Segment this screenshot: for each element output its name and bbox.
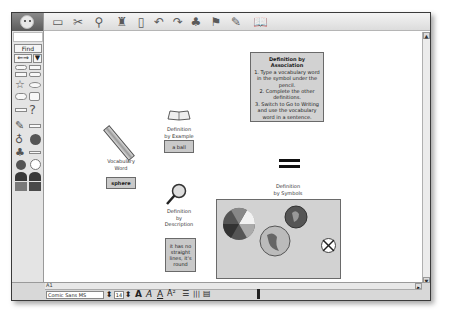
ellipse-shape-tool[interactable] bbox=[29, 82, 41, 88]
find-button[interactable]: Find bbox=[14, 44, 42, 53]
redo-icon[interactable]: ↷ bbox=[171, 14, 185, 30]
bold-button[interactable]: A bbox=[135, 289, 142, 299]
tree-icon[interactable]: ♣ bbox=[15, 147, 25, 158]
toolbar-blank-field[interactable] bbox=[13, 32, 43, 42]
undo-icon[interactable]: ↶ bbox=[152, 14, 166, 30]
link-icon[interactable]: ⚲ bbox=[92, 14, 106, 30]
example-label: Definition by Example bbox=[159, 126, 199, 139]
find-label: Find bbox=[22, 45, 34, 52]
girl-avatar-icon[interactable] bbox=[29, 172, 41, 181]
nav-arrows-button[interactable]: ⇐⇒ bbox=[14, 54, 32, 63]
magnifying-glass-icon bbox=[165, 183, 187, 207]
pie-chart-symbol-icon bbox=[222, 207, 256, 241]
pencil-icon[interactable]: ✎ bbox=[228, 14, 244, 30]
rounded-shape-tool[interactable] bbox=[29, 72, 41, 77]
font-stepper-icon[interactable]: ⬍ bbox=[106, 290, 113, 299]
dropdown-button[interactable]: ▼ bbox=[33, 54, 42, 63]
instructions-title: Definition by Association bbox=[253, 56, 321, 69]
flag-icon[interactable]: ⚑ bbox=[208, 14, 224, 30]
symbols-label: Definition by Symbols bbox=[263, 183, 313, 196]
horizontal-scrollbar[interactable]: A1 ▸ bbox=[45, 283, 422, 290]
scroll-up-arrow[interactable]: ▲ bbox=[423, 32, 430, 39]
text-box-icon[interactable]: ▤ bbox=[203, 289, 211, 299]
size-stepper-icon[interactable]: ⬍ bbox=[125, 290, 132, 299]
paint-bucket-icon[interactable]: ♜ bbox=[114, 14, 130, 30]
italic-button[interactable]: A bbox=[146, 289, 152, 299]
equals-sign-icon bbox=[279, 159, 300, 171]
underline-button[interactable]: A bbox=[157, 289, 163, 299]
symbols-box[interactable] bbox=[216, 199, 341, 279]
zoom-label: A1 bbox=[46, 282, 53, 288]
app-logo[interactable] bbox=[12, 13, 44, 31]
pencil-tool-icon[interactable]: ✎ bbox=[15, 120, 24, 131]
book-search-icon[interactable]: 📖 bbox=[250, 14, 270, 30]
example-field[interactable]: a ball bbox=[164, 140, 194, 153]
boy-body-icon[interactable] bbox=[15, 182, 27, 191]
new-card-icon[interactable]: ▭ bbox=[49, 14, 67, 30]
eraser-icon[interactable]: ▯ bbox=[136, 14, 146, 30]
key-tool-icon[interactable] bbox=[29, 151, 41, 154]
lightbulb-icon[interactable]: ♁ bbox=[15, 134, 23, 145]
font-size-field[interactable]: 14 bbox=[114, 291, 124, 299]
apple-icon[interactable] bbox=[16, 160, 26, 170]
label-shape-tool[interactable] bbox=[15, 72, 27, 77]
instructions-step-2: 2. Complete the other definitions. bbox=[253, 88, 321, 101]
coin-symbol-icon bbox=[284, 205, 308, 229]
color-swatch[interactable] bbox=[257, 289, 260, 299]
cloud-shape-tool[interactable] bbox=[15, 93, 27, 100]
font-select[interactable]: Comic Sans MS bbox=[46, 291, 104, 299]
oval-shape-tool[interactable] bbox=[15, 65, 27, 70]
boy-avatar-icon[interactable] bbox=[15, 172, 27, 181]
app-window: ▭ ✂ ⚲ ♜ ▯ ↶ ↷ ♣ ⚑ ✎ 📖 Find ⇐⇒ ▼ ☆ ? ✎ ♁ … bbox=[11, 12, 431, 301]
arrow-banner-tool[interactable] bbox=[29, 124, 41, 128]
globe-symbol-icon bbox=[259, 225, 291, 257]
canvas[interactable]: Definition by Association 1. Type a voca… bbox=[45, 32, 423, 284]
vocabulary-label: Vocabulary Word bbox=[101, 158, 141, 171]
banner-shape-tool[interactable] bbox=[15, 108, 27, 112]
clock-icon[interactable] bbox=[30, 159, 41, 170]
cut-scissors-icon[interactable]: ✂ bbox=[71, 14, 85, 30]
instructions-box: Definition by Association 1. Type a voca… bbox=[250, 52, 324, 122]
scroll-right-arrow[interactable]: ▸ bbox=[415, 283, 422, 289]
railroad-crossing-icon bbox=[321, 238, 336, 253]
superscript-button[interactable]: A² bbox=[167, 289, 176, 299]
format-bar: A1 ▸ Comic Sans MS ⬍ 14 ⬍ A A A A² ☰ |||… bbox=[12, 282, 430, 300]
instructions-step-3: 3. Switch to Go to Writing and use the v… bbox=[253, 101, 321, 120]
columns-icon[interactable]: ||| bbox=[193, 289, 200, 299]
globe-tool-icon[interactable] bbox=[30, 134, 41, 145]
instructions-step-1: 1. Type a vocabulary word in the symbol … bbox=[253, 69, 321, 88]
open-book-icon bbox=[167, 109, 191, 121]
vertical-scrollbar[interactable]: ▲ ▼ bbox=[422, 32, 430, 284]
left-toolbar: Find ⇐⇒ ▼ ☆ ? ✎ ♁ ♣ bbox=[12, 31, 44, 284]
speech-shape-tool[interactable] bbox=[29, 92, 40, 101]
top-toolbar: ▭ ✂ ⚲ ♜ ▯ ↶ ↷ ♣ ⚑ ✎ 📖 bbox=[12, 13, 430, 31]
align-list-icon[interactable]: ☰ bbox=[182, 289, 189, 299]
vocabulary-field[interactable]: sphere bbox=[106, 177, 136, 189]
star-shape-icon[interactable]: ☆ bbox=[15, 79, 25, 90]
description-label: Definition by Description bbox=[159, 208, 199, 228]
question-icon[interactable]: ? bbox=[29, 104, 36, 115]
rect-shape-tool[interactable] bbox=[29, 65, 41, 70]
description-field[interactable]: it has no straight lines, it's round bbox=[165, 238, 196, 272]
pencil-illustration-icon bbox=[103, 125, 135, 161]
girl-body-icon[interactable] bbox=[29, 182, 41, 191]
app-logo-face-icon bbox=[20, 15, 34, 29]
idea-bulb-icon[interactable]: ♣ bbox=[190, 14, 202, 30]
